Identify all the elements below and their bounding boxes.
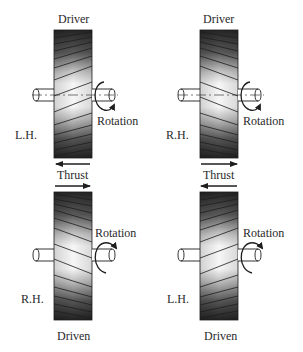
rotation-label: Rotation	[95, 227, 136, 239]
panel-top-right	[178, 30, 264, 164]
shaft-left	[178, 249, 201, 261]
rotation-label: Rotation	[243, 227, 284, 239]
role-label-driver: Driver	[58, 13, 89, 25]
gear-body	[54, 192, 92, 320]
gear-body	[200, 192, 238, 320]
hand-label-rh: R.H.	[21, 293, 44, 305]
hand-label-rh: R.H.	[166, 129, 189, 141]
panel-bottom-left	[33, 186, 116, 320]
gear-body	[200, 30, 238, 158]
panel-top-left	[32, 30, 118, 164]
hand-label-lh: L.H.	[15, 129, 37, 141]
rotation-label: Rotation	[97, 115, 138, 127]
panel-bottom-right	[178, 186, 262, 320]
rotation-label: Rotation	[243, 115, 284, 127]
hand-label-lh: L.H.	[167, 293, 189, 305]
thrust-label: Thrust	[57, 169, 88, 181]
role-label-driver: Driver	[203, 13, 234, 25]
role-label-driven: Driven	[57, 330, 90, 342]
role-label-driven: Driven	[204, 330, 237, 342]
thrust-label: Thrust	[203, 169, 234, 181]
shaft-left	[33, 249, 56, 261]
gear-body	[54, 30, 92, 158]
diagram-canvas	[0, 0, 303, 352]
